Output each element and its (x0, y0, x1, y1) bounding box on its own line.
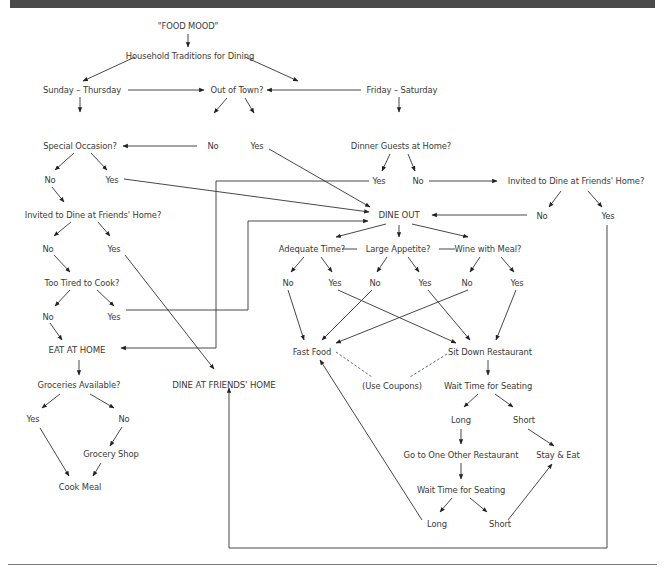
node-fast-food: Fast Food (293, 347, 332, 357)
node-invited-left-yes: Yes (107, 244, 120, 254)
node-groceries-yes: Yes (26, 414, 39, 424)
node-grocery-shop: Grocery Shop (83, 449, 139, 459)
node-wine-yes: Yes (510, 278, 523, 288)
node-large-appetite-no: No (369, 278, 380, 288)
node-too-tired-yes: Yes (107, 312, 120, 322)
node-go-to-other-restaurant: Go to One Other Restaurant (404, 450, 519, 460)
node-dinner-guests: Dinner Guests at Home? (351, 141, 451, 151)
node-out-of-town-yes: Yes (250, 141, 263, 151)
node-out-of-town: Out of Town? (211, 85, 264, 95)
node-wait-2-long: Long (427, 519, 447, 529)
node-wait-time-2: Wait Time for Seating (417, 485, 505, 495)
node-adequate-time-no: No (282, 278, 293, 288)
node-food-mood: "FOOD MOOD" (158, 21, 219, 31)
node-sunday-thursday: Sunday – Thursday (43, 85, 121, 95)
node-special-occasion: Special Occasion? (43, 141, 117, 151)
node-adequate-time-yes: Yes (328, 278, 341, 288)
node-invited-right: Invited to Dine at Friends' Home? (508, 176, 644, 186)
node-large-appetite: Large Appetite? (366, 244, 431, 254)
node-cook-meal: Cook Meal (59, 482, 102, 492)
node-groceries-no: No (118, 414, 129, 424)
node-invited-right-no: No (536, 211, 547, 221)
node-wait-time-1: Wait Time for Seating (444, 381, 532, 391)
node-too-tired-no: No (42, 312, 53, 322)
node-dine-out: DINE OUT (378, 210, 419, 220)
node-wait-1-long: Long (451, 415, 471, 425)
node-eat-at-home: EAT AT HOME (49, 345, 106, 355)
node-special-occasion-no: No (44, 175, 55, 185)
node-stay-and-eat: Stay & Eat (536, 450, 579, 460)
node-dinner-guests-yes: Yes (372, 176, 385, 186)
node-special-occasion-yes: Yes (105, 175, 118, 185)
node-dinner-guests-no: No (412, 176, 423, 186)
node-wait-1-short: Short (513, 415, 535, 425)
node-too-tired: Too Tired to Cook? (45, 278, 120, 288)
node-friday-saturday: Friday – Saturday (367, 85, 438, 95)
bottom-rule (8, 564, 657, 565)
node-adequate-time: Adequate Time? (279, 244, 345, 254)
node-groceries-available: Groceries Available? (38, 380, 121, 390)
node-large-appetite-yes: Yes (418, 278, 431, 288)
node-out-of-town-no: No (207, 141, 218, 151)
node-wine-with-meal: Wine with Meal? (455, 244, 522, 254)
node-dine-at-friends-home: DINE AT FRIENDS' HOME (172, 380, 275, 390)
node-household-traditions: Household Traditions for Dining (126, 51, 254, 61)
node-use-coupons: (Use Coupons) (362, 381, 422, 391)
node-wine-no: No (461, 278, 472, 288)
node-wait-2-short: Short (489, 519, 511, 529)
node-invited-right-yes: Yes (601, 211, 614, 221)
node-sit-down-restaurant: Sit Down Restaurant (448, 347, 532, 357)
node-invited-left-no: No (42, 244, 53, 254)
node-invited-left: Invited to Dine at Friends' Home? (25, 210, 161, 220)
